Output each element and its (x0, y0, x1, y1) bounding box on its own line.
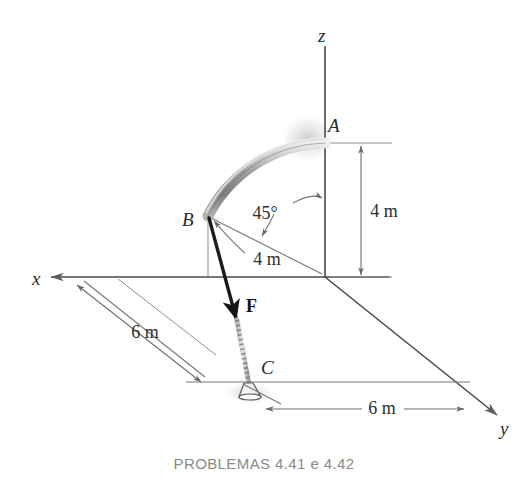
figure-root: 45° 4 m 4 m 6 m 6 m 6 m F A B C x y z (0, 0, 528, 500)
label-point-a: A (326, 115, 340, 136)
radius-label: 4 m (253, 249, 281, 269)
force-vector-bf (209, 218, 236, 318)
x-offset-label: 6 m (131, 322, 159, 342)
height-label: 4 m (370, 201, 398, 221)
y-axis (325, 277, 497, 415)
figure-caption: PROBLEMAS 4.41 e 4.42 (0, 455, 528, 472)
y-offset-label-front: 6 m (368, 398, 396, 418)
label-axis-y: y (498, 418, 509, 439)
label-axis-z: z (317, 25, 326, 46)
angle-leader-to-z (293, 196, 322, 203)
label-point-c: C (261, 357, 274, 378)
label-axis-x: x (31, 268, 41, 289)
angle-label: 45° (252, 203, 277, 223)
label-point-b: B (182, 209, 194, 230)
mechanics-diagram: 45° 4 m 4 m 6 m 6 m 6 m F A B C x y z (0, 0, 528, 500)
x-dim-ext-upper (118, 279, 216, 355)
force-label: F (246, 296, 257, 316)
anchor-base-c (239, 394, 261, 400)
